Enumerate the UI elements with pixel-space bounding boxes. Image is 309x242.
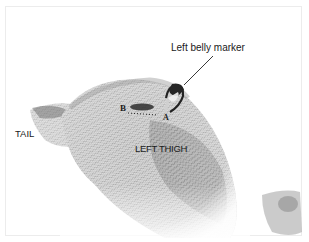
left-belly-marker-label: Left belly marker	[171, 43, 245, 53]
foot-shape	[262, 191, 302, 235]
point-a-label: A	[163, 114, 169, 122]
knitted-body-photo	[0, 0, 309, 242]
leader-line	[184, 56, 213, 85]
point-b-label: B	[120, 104, 126, 113]
stitch-gap	[130, 104, 154, 111]
left-thigh-label: LEFT THIGH	[135, 144, 187, 154]
tail-label: TAIL	[15, 129, 34, 139]
